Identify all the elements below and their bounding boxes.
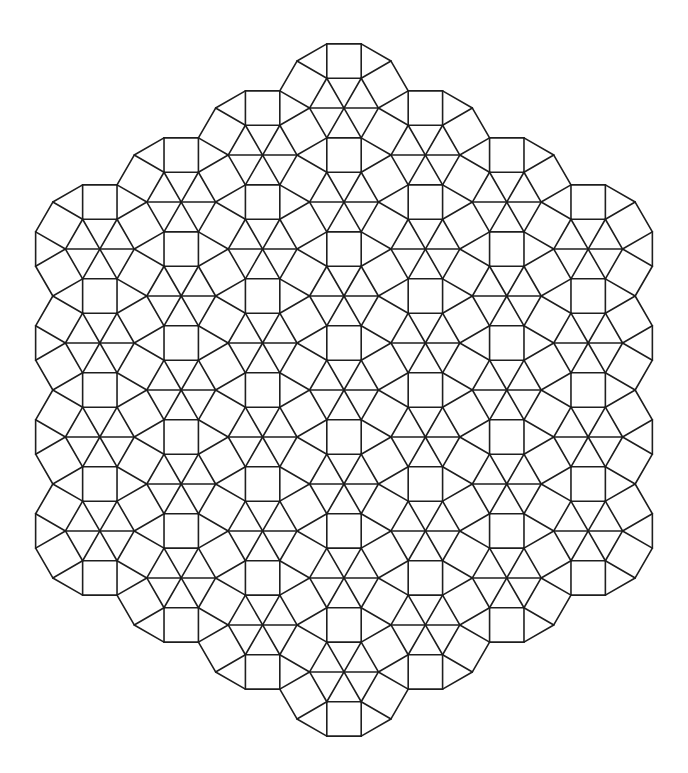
tile-edge (181, 548, 198, 578)
tile-edge (391, 61, 408, 91)
tile-edge (164, 484, 181, 514)
tile-edge (344, 202, 361, 232)
tile-edge (391, 407, 408, 437)
tile-edge (134, 531, 164, 548)
tile-edge (181, 484, 198, 514)
tile-edge (216, 484, 246, 501)
tile-edge (635, 484, 652, 514)
tile-edge (134, 138, 164, 155)
tile-edge (490, 202, 507, 232)
tile-edge (65, 313, 82, 343)
tile-edge (507, 578, 524, 608)
tile-edge (605, 202, 635, 219)
tile-edge (36, 548, 53, 578)
tile-edge (263, 249, 280, 279)
tile-edge (391, 219, 408, 249)
tile-edge (605, 531, 622, 561)
tile-edge (117, 595, 134, 625)
tile-edge (361, 343, 391, 360)
tile-edge (280, 625, 297, 655)
tile-edge (443, 343, 460, 373)
tile-edge (280, 125, 297, 155)
tile-edge (554, 313, 571, 343)
tile-edge (605, 185, 635, 202)
tile-edge (524, 531, 554, 548)
tile-edge (216, 390, 246, 407)
tile-edge (53, 202, 83, 219)
tile-edge (378, 202, 408, 219)
tile-edge (134, 625, 164, 642)
tile-edge (134, 608, 164, 625)
tile-edge (280, 343, 297, 373)
tile-edge (280, 672, 310, 689)
tile-edge (408, 501, 425, 531)
tile-edge (378, 655, 408, 672)
tile-edge (605, 373, 635, 390)
tile-edge (408, 625, 425, 655)
tile-edge (280, 219, 297, 249)
tile-edge (571, 407, 588, 437)
tile-edge (297, 232, 327, 249)
tile-edge (571, 219, 588, 249)
tile-edge (588, 501, 605, 531)
tile-edge (541, 185, 571, 202)
tile-edge (541, 578, 571, 595)
tile-edge (472, 484, 489, 514)
tile-edge (490, 360, 507, 390)
tile-edge (524, 454, 541, 484)
tile-edge (181, 390, 198, 420)
tile-edge (280, 407, 297, 437)
tile-edge (472, 454, 489, 484)
tile-edge (228, 407, 245, 437)
square-triangle-tiling (0, 0, 688, 773)
tile-edge (310, 266, 327, 296)
tile-edge (490, 484, 507, 514)
tile-edge (425, 155, 442, 185)
tile-edge (361, 702, 391, 719)
tile-edge (361, 266, 378, 296)
tile-edge (443, 501, 460, 531)
tile-edge (605, 561, 635, 578)
tile-edge (228, 595, 245, 625)
tile-edge (327, 78, 344, 108)
tile-edge (280, 561, 310, 578)
tile-edge (297, 343, 327, 360)
tile-edge (588, 219, 605, 249)
tile-edge (378, 279, 408, 296)
tile-edge (147, 266, 164, 296)
tile-edge (361, 608, 391, 625)
tile-edge (100, 219, 117, 249)
tile-edge (36, 454, 53, 484)
tile-edge (327, 108, 344, 138)
tile-edge (117, 249, 134, 279)
tile-edge (554, 219, 571, 249)
tile-edge (425, 125, 442, 155)
tile-edge (408, 343, 425, 373)
tile-edge (524, 155, 554, 172)
tile-edge (541, 484, 571, 501)
tile-edge (378, 296, 408, 313)
tile-edge (490, 454, 507, 484)
tile-edge (280, 108, 310, 125)
tile-edge (117, 467, 147, 484)
tile-edge (507, 172, 524, 202)
tile-edge (408, 313, 425, 343)
tile-edge (541, 373, 571, 390)
tile-edge (361, 531, 391, 548)
tile-edge (344, 108, 361, 138)
tile-edge (280, 155, 297, 185)
tile-edge (117, 185, 147, 202)
tile-edge (361, 390, 378, 420)
tile-edge (198, 343, 228, 360)
tile-edge (605, 437, 622, 467)
tile-edge (344, 642, 361, 672)
tile-edge (65, 437, 82, 467)
tile-edge (280, 249, 297, 279)
tile-edge (605, 501, 622, 531)
tile-edge (460, 437, 490, 454)
tile-edge (588, 531, 605, 561)
tile-edge (280, 484, 310, 501)
tile-edge (460, 155, 490, 172)
tile-edge (36, 514, 66, 531)
tile-edge (53, 390, 83, 407)
